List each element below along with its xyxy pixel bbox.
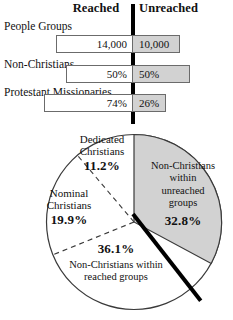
column-header-reached: Reached [62,1,130,16]
pie-label-reached-non-christians: 36.1% Non-Christians within reached grou… [56,242,176,283]
pie-value-dedicated: 11.2% [66,159,138,173]
pie-value-nominal: 19.9% [33,213,105,227]
pie-value-unreached: 32.8% [142,214,224,228]
bar-segment-reached: 74% [45,95,133,111]
pie-label-nominal-christians: Nominal Christians 19.9% [33,188,105,227]
bar-non-christians: 50% 50% [66,65,190,83]
infographic-root: Reached Unreached People Groups 14,000 1… [0,0,233,320]
row-label-non-christians: Non-Christians [4,58,74,70]
pie-label-dedicated-christians: Dedicated Christians 11.2% [66,134,138,173]
row-label-people-groups: People Groups [4,20,72,32]
bar-segment-reached: 14,000 [57,36,133,52]
bar-protestant-missionaries: 74% 26% [44,94,166,112]
bar-segment-unreached: 10,000 [133,36,179,52]
pie-value-reached: 36.1% [56,242,176,256]
bar-segment-unreached: 26% [133,95,165,111]
pie-label-unreached-non-christians: Non-Christians within unreached groups 3… [142,160,224,227]
bar-segment-reached: 50% [67,66,133,82]
bar-people-groups: 14,000 10,000 [56,35,180,53]
column-header-unreached: Unreached [139,1,223,16]
bar-segment-unreached: 50% [133,66,189,82]
